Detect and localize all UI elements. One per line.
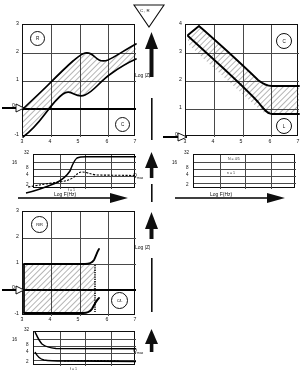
logz-axis-bottom [144, 212, 160, 312]
panel-top-right: C L 4 3 2 1 0 3 4 5 6 7 [160, 18, 305, 143]
qmax-label-sub: max [137, 176, 143, 180]
ytick-top-right-1: 3 [169, 49, 182, 54]
qmax-ul-ytick-8: 8 [26, 166, 29, 171]
xtick-top-left-0: 3 [16, 139, 28, 144]
ytick-top-left-4: -1 [6, 132, 19, 137]
xtick-top-left-2: 5 [72, 139, 84, 144]
qmax-axis-upper [144, 152, 160, 202]
plot-area-top-left: R C [22, 24, 135, 136]
panel-qmax-upper-left: 32 16 8 4 2 f = 1 Log F(Hz) [0, 150, 145, 205]
qmax-ur-ytick-32: 32 [184, 151, 189, 156]
logz-axis-top [144, 32, 160, 140]
ytick-bottom-left-4: -1 [6, 311, 19, 316]
qmax-ll-ytick-2: 2 [26, 360, 29, 365]
qmax-ur-ytick-2: 2 [186, 183, 189, 188]
qmax-ll-annotation: f = 1 [70, 367, 77, 371]
panel-qmax-lower-left: 32 16 8 4 2 f = 1 [0, 327, 145, 377]
qmax-plot-upper-left [33, 154, 135, 188]
qmax-ll-ytick-32: 32 [24, 328, 29, 333]
xtick-bottom-left-2: 5 [72, 317, 84, 322]
plot-area-top-right: C L [185, 24, 298, 136]
xtick-bottom-left-4: 7 [129, 317, 141, 322]
ytick-bottom-left-2: 1 [6, 260, 19, 265]
triangle-marker-label: C, R [140, 8, 150, 13]
xtick-top-right-3: 6 [264, 139, 276, 144]
corner-label-L: L [276, 118, 292, 134]
corner-label-R: R [30, 31, 45, 46]
corner-label-C: C [115, 117, 130, 132]
xtick-top-left-3: 6 [101, 139, 113, 144]
xtick-top-right-1: 4 [207, 139, 219, 144]
ytick-top-right-3: 1 [169, 105, 182, 110]
xtick-bottom-left-0: 3 [16, 317, 28, 322]
qmax-ur-ytick-16: 16 [172, 161, 177, 166]
qmax-axis-label-lower: Qmax [133, 347, 143, 355]
xtick-top-right-2: 5 [235, 139, 247, 144]
xtick-bottom-left-3: 6 [101, 317, 113, 322]
qmax-ur-ytick-4: 4 [186, 173, 189, 178]
ytick-bottom-left-1: 2 [6, 234, 19, 239]
xtick-top-left-4: 7 [129, 139, 141, 144]
qmax-ul-ytick-16: 16 [12, 161, 17, 166]
qmax-ll-ytick-16: 16 [12, 338, 17, 343]
qmax-plot-lower-left [33, 331, 135, 365]
qmax-plot-upper-right: N = 4/5 n = 1 [193, 154, 295, 188]
panel-bottom-left: R/R C/L 3 2 1 0 -1 3 4 5 6 7 [0, 207, 145, 325]
ytick-top-left-1: 2 [6, 49, 19, 54]
qmax-ll-ytick-4: 4 [26, 350, 29, 355]
ytick-top-left-0: 3 [6, 21, 19, 26]
qmax-axis-label-upper: Qmax [133, 172, 143, 180]
xaxis-label-upper-left: Log F(Hz) [52, 191, 78, 197]
corner-label-C-right: C [276, 33, 292, 49]
corner-label-R-over-R: R/R [31, 216, 48, 233]
figure-canvas: C, R R C [0, 0, 305, 380]
qmax-ul-ytick-2: 2 [26, 183, 29, 188]
qmax-ll-ytick-8: 8 [26, 343, 29, 348]
ytick-bottom-left-0: 3 [6, 208, 19, 213]
xtick-bottom-left-1: 4 [44, 317, 56, 322]
qmax-ur-annotation-top: N = 4/5 [228, 157, 240, 161]
panel-top-left: R C 3 2 1 0 -1 3 4 5 6 7 [0, 18, 145, 143]
xtick-top-left-1: 4 [44, 139, 56, 144]
logz-axis-label-bottom: Log |Z| [135, 244, 150, 250]
qmax-axis-lower [144, 329, 160, 369]
xtick-top-right-0: 3 [179, 139, 191, 144]
ytick-top-left-2: 1 [6, 77, 19, 82]
logz-axis-label-top: Log |Z| [135, 72, 150, 78]
qmax-ur-ytick-8: 8 [186, 166, 189, 171]
xaxis-label-upper-right: Log F(Hz) [208, 191, 234, 197]
xtick-top-right-4: 7 [292, 139, 304, 144]
ytick-top-right-2: 2 [169, 77, 182, 82]
panel-qmax-upper-right: N = 4/5 n = 1 32 16 8 4 2 Log F(Hz) [160, 150, 305, 205]
corner-label-C-over-L: C/L [111, 292, 128, 309]
qmax-ur-annotation-mid: n = 1 [227, 171, 235, 175]
qmax-ul-ytick-4: 4 [26, 173, 29, 178]
plot-area-bottom-left: R/R C/L [22, 211, 135, 315]
ytick-top-right-0: 4 [169, 21, 182, 26]
qmax-ul-ytick-32: 32 [24, 151, 29, 156]
qmax-label-sub-lower: max [137, 351, 143, 355]
